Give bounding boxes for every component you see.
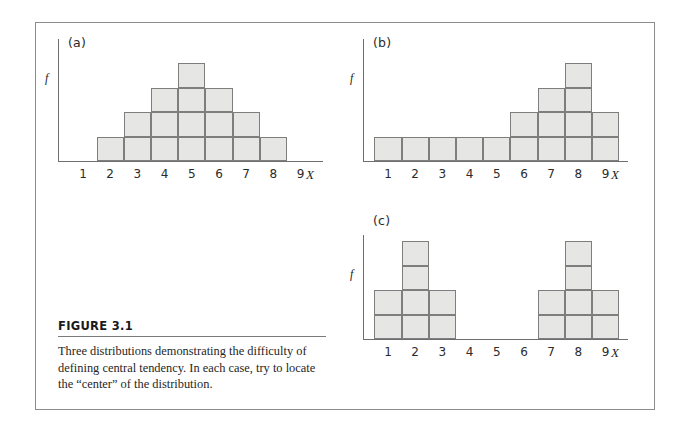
- histogram-cell: [205, 112, 232, 137]
- caption-title: FIGURE 3.1: [58, 319, 326, 333]
- x-tick-label: 8: [264, 167, 282, 181]
- x-tick-label: 3: [128, 167, 146, 181]
- x-tick-label: 6: [515, 167, 533, 181]
- histogram-cell: [124, 112, 151, 137]
- histogram-cell: [538, 137, 565, 162]
- histogram-cell: [374, 315, 401, 340]
- figure-frame: (a) f X 123456789 (b) f X 123456789 (c) …: [35, 22, 655, 410]
- histogram-cell: [456, 137, 483, 162]
- panel-c-label: (c): [373, 213, 390, 228]
- x-tick-label: 1: [379, 167, 397, 181]
- x-tick-label: 9: [597, 345, 615, 359]
- histogram-cell: [429, 315, 456, 340]
- histogram-cell: [178, 137, 205, 162]
- panel-b-y-axis: [363, 39, 364, 161]
- histogram-cell: [233, 112, 260, 137]
- x-tick-label: 4: [156, 167, 174, 181]
- x-tick-label: 9: [597, 167, 615, 181]
- histogram-cell: [402, 241, 429, 266]
- x-tick-label: 1: [74, 167, 92, 181]
- panel-b-y-axis-label: f: [350, 71, 353, 86]
- histogram-cell: [565, 266, 592, 291]
- histogram-cell: [510, 137, 537, 162]
- histogram-cell: [429, 290, 456, 315]
- histogram-cell: [233, 137, 260, 162]
- histogram-cell: [592, 112, 619, 137]
- x-tick-label: 7: [237, 167, 255, 181]
- x-tick-label: 8: [569, 167, 587, 181]
- x-tick-label: 4: [461, 345, 479, 359]
- histogram-cell: [402, 266, 429, 291]
- x-tick-label: 5: [488, 345, 506, 359]
- histogram-cell: [205, 137, 232, 162]
- x-tick-label: 1: [379, 345, 397, 359]
- x-tick-label: 2: [406, 345, 424, 359]
- panel-b-label: (b): [373, 35, 391, 50]
- histogram-cell: [429, 137, 456, 162]
- histogram-cell: [565, 241, 592, 266]
- histogram-cell: [538, 315, 565, 340]
- x-tick-label: 6: [515, 345, 533, 359]
- histogram-cell: [374, 137, 401, 162]
- panel-c-y-axis-label: f: [350, 267, 353, 282]
- histogram-cell: [374, 290, 401, 315]
- panel-c-x-axis: [363, 339, 628, 340]
- x-tick-label: 7: [542, 167, 560, 181]
- panel-c-y-axis: [363, 235, 364, 339]
- x-tick-label: 3: [433, 167, 451, 181]
- histogram-cell: [510, 112, 537, 137]
- histogram-cell: [402, 315, 429, 340]
- x-tick-label: 6: [210, 167, 228, 181]
- histogram-cell: [538, 112, 565, 137]
- histogram-cell: [402, 137, 429, 162]
- histogram-cell: [592, 315, 619, 340]
- panel-a-y-axis-label: f: [45, 71, 48, 86]
- panel-a-y-axis: [58, 39, 59, 161]
- histogram-cell: [151, 137, 178, 162]
- histogram-cell: [538, 290, 565, 315]
- chart-panel-a: (a) f X 123456789: [36, 23, 356, 188]
- x-tick-label: 5: [488, 167, 506, 181]
- histogram-cell: [178, 63, 205, 88]
- x-tick-label: 3: [433, 345, 451, 359]
- x-tick-label: 2: [406, 167, 424, 181]
- histogram-cell: [178, 112, 205, 137]
- histogram-cell: [565, 315, 592, 340]
- x-tick-label: 8: [569, 345, 587, 359]
- chart-panel-c: (c) f X 123456789: [341, 201, 656, 366]
- histogram-cell: [565, 137, 592, 162]
- histogram-cell: [565, 88, 592, 113]
- x-tick-label: 7: [542, 345, 560, 359]
- panel-a-x-axis: [58, 161, 323, 162]
- histogram-cell: [97, 137, 124, 162]
- histogram-cell: [592, 137, 619, 162]
- histogram-cell: [178, 88, 205, 113]
- chart-panel-b: (b) f X 123456789: [341, 23, 656, 188]
- histogram-cell: [124, 137, 151, 162]
- histogram-cell: [592, 290, 619, 315]
- x-tick-label: 9: [292, 167, 310, 181]
- x-tick-label: 2: [101, 167, 119, 181]
- panel-a-label: (a): [68, 35, 86, 50]
- histogram-cell: [565, 112, 592, 137]
- figure-caption: FIGURE 3.1 Three distributions demonstra…: [58, 319, 326, 393]
- histogram-cell: [538, 88, 565, 113]
- histogram-cell: [151, 112, 178, 137]
- histogram-cell: [205, 88, 232, 113]
- histogram-cell: [483, 137, 510, 162]
- histogram-cell: [402, 290, 429, 315]
- caption-text: Three distributions demonstrating the di…: [58, 343, 326, 393]
- histogram-cell: [565, 290, 592, 315]
- x-tick-label: 4: [461, 167, 479, 181]
- caption-divider: [58, 336, 326, 337]
- panel-b-x-axis: [363, 161, 628, 162]
- x-tick-label: 5: [183, 167, 201, 181]
- histogram-cell: [565, 63, 592, 88]
- histogram-cell: [151, 88, 178, 113]
- histogram-cell: [260, 137, 287, 162]
